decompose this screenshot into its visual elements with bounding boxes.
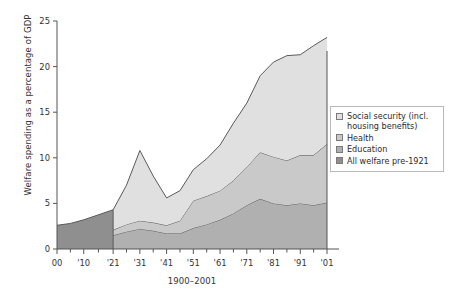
legend-item-label: Education xyxy=(347,144,387,154)
x-tick-label: '71 xyxy=(240,258,253,268)
x-tick-label: '10 xyxy=(77,258,90,268)
legend-swatch-icon xyxy=(336,134,343,141)
x-tick-label: '81 xyxy=(267,258,280,268)
legend-swatch-icon xyxy=(336,146,343,153)
x-tick-label: '31 xyxy=(133,258,146,268)
x-tick-label: '21 xyxy=(107,258,120,268)
x-tick-label: 00 xyxy=(52,258,63,268)
x-tick-label: '61 xyxy=(214,258,227,268)
x-tick-label: '01 xyxy=(321,258,334,268)
y-axis-title: Welfare spending as a percentage of GDP xyxy=(23,5,33,205)
y-tick-label: 0 xyxy=(45,244,50,254)
y-tick-label: 5 xyxy=(45,198,50,208)
legend-item[interactable]: Health xyxy=(336,133,439,143)
chart-figure: 051015202500'10'21'31'41'51'61'71'81'91'… xyxy=(0,0,451,302)
legend-item-label: Social security (incl. housing benefits) xyxy=(347,111,439,132)
area-band-pre1921 xyxy=(57,210,113,249)
y-tick-label: 10 xyxy=(39,153,50,163)
legend-swatch-icon xyxy=(336,113,343,120)
x-tick-label: '51 xyxy=(187,258,200,268)
y-tick-label: 15 xyxy=(39,107,50,117)
legend-item[interactable]: All welfare pre-1921 xyxy=(336,156,439,166)
legend-item-label: Health xyxy=(347,133,374,143)
legend-item[interactable]: Education xyxy=(336,144,439,154)
legend-swatch-icon xyxy=(336,157,343,164)
chart-legend: Social security (incl. housing benefits)… xyxy=(330,106,444,172)
x-tick-label: '91 xyxy=(294,258,307,268)
legend-item[interactable]: Social security (incl. housing benefits) xyxy=(336,111,439,132)
x-axis-title: 1900–2001 xyxy=(57,276,327,286)
y-tick-label: 20 xyxy=(39,62,50,72)
legend-item-label: All welfare pre-1921 xyxy=(347,156,429,166)
y-tick-label: 25 xyxy=(39,16,50,26)
x-tick-label: '41 xyxy=(160,258,173,268)
